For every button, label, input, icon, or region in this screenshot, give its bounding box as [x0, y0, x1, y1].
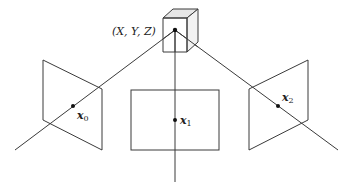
world-point-label: (X, Y, Z) [112, 25, 156, 38]
point-x2 [276, 104, 280, 108]
diagram-canvas: (X, Y, Z) x0 x1 x2 [0, 0, 347, 188]
point-x0 [71, 104, 75, 108]
point-x1 [173, 118, 177, 122]
world-point [173, 28, 177, 32]
ray-left-inner [163, 30, 175, 39]
cube-icon [163, 9, 198, 52]
